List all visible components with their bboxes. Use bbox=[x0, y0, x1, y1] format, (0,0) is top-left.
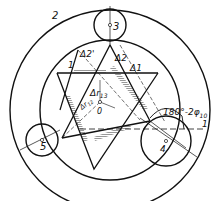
roller-4-center bbox=[164, 139, 167, 142]
construction-line-6 bbox=[150, 121, 186, 148]
label-roller-5: 5 bbox=[40, 141, 46, 152]
construction-line-5 bbox=[100, 102, 115, 108]
label-axis-mark: 1 bbox=[202, 119, 208, 129]
roller-3-center bbox=[108, 23, 111, 26]
mechanism-diagram: 2 3 4 5 1 Δ2' Δ2 Δ1 Δr13 Δr12 0 180°-2φ1… bbox=[0, 0, 216, 201]
label-center: 0 bbox=[97, 107, 102, 116]
label-roller-4: 4 bbox=[160, 144, 166, 154]
top-chord-hatch bbox=[74, 70, 106, 73]
label-delta-2-prime: Δ2' bbox=[79, 49, 94, 59]
label-outer-ring: 2 bbox=[52, 10, 58, 21]
label-delta-r12: Δr12 bbox=[77, 96, 94, 113]
label-delta-r13: Δr13 bbox=[89, 88, 108, 99]
roller-4-axis bbox=[140, 118, 197, 157]
hatch-bottom bbox=[94, 124, 131, 141]
center-point bbox=[98, 100, 101, 103]
label-member-1: 1 bbox=[68, 60, 74, 70]
triangle-down bbox=[57, 73, 158, 169]
label-delta-1: Δ1 bbox=[129, 63, 142, 73]
label-roller-3: 3 bbox=[113, 21, 119, 32]
label-delta-2: Δ2 bbox=[114, 53, 127, 63]
label-angle: 180°-2φ10 bbox=[163, 107, 207, 119]
